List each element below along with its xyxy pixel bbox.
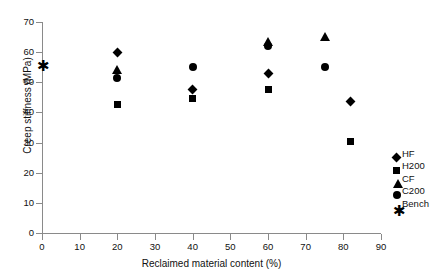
- legend-item-cf[interactable]: CF: [386, 173, 438, 185]
- legend-item-c200[interactable]: C200: [386, 185, 438, 197]
- diamond-marker-icon: [263, 68, 273, 78]
- legend-marker-asterisk: ✱: [386, 198, 400, 210]
- x-tick-label-40: 40: [178, 242, 208, 252]
- legend-marker-square: [386, 160, 400, 172]
- asterisk-marker-icon: ✱: [37, 59, 50, 74]
- x-tick-30: [155, 234, 156, 240]
- triangle-marker-icon: [263, 37, 273, 46]
- x-tick-60: [268, 234, 269, 240]
- x-tick-20: [117, 234, 118, 240]
- circle-marker-icon: [113, 74, 121, 82]
- square-marker-icon: [347, 138, 354, 145]
- chart-screenshot: 010203040506070 0102030405060708090 Cree…: [0, 0, 439, 280]
- chart-legend: HFH200CFC200✱Bench: [386, 148, 438, 210]
- x-tick-90: [381, 234, 382, 240]
- y-tick-label-70: 70: [0, 17, 34, 26]
- square-marker-icon: [265, 86, 272, 93]
- y-axis-title: Creep stiffness (MPa): [22, 31, 33, 181]
- y-tick-70: [36, 22, 42, 23]
- x-tick-label-80: 80: [328, 242, 358, 252]
- x-tick-label-70: 70: [291, 242, 321, 252]
- y-tick-40: [36, 112, 42, 113]
- x-axis-line: [42, 233, 381, 234]
- x-axis-title: Reclaimed material content (%): [42, 258, 381, 269]
- legend-label-text: H200: [402, 160, 425, 172]
- x-tick-70: [306, 234, 307, 240]
- triangle-marker-icon: [320, 32, 330, 41]
- y-tick-label-text: 70: [6, 17, 34, 26]
- x-tick-50: [230, 234, 231, 240]
- y-tick-10: [36, 203, 42, 204]
- diamond-marker-icon: [112, 47, 122, 57]
- x-tick-label-10: 10: [65, 242, 95, 252]
- legend-label-text: C200: [402, 185, 425, 197]
- y-tick-50: [36, 82, 42, 83]
- triangle-marker-icon: [112, 65, 122, 74]
- legend-label-text: Bench: [402, 198, 429, 210]
- x-tick-label-50: 50: [215, 242, 245, 252]
- y-tick-label-10: 10: [0, 198, 34, 207]
- y-tick-30: [36, 143, 42, 144]
- x-tick-label-90: 90: [366, 242, 396, 252]
- x-tick-label-60: 60: [253, 242, 283, 252]
- legend-item-h200[interactable]: H200: [386, 160, 438, 172]
- legend-item-bench[interactable]: ✱Bench: [386, 198, 438, 210]
- y-tick-60: [36, 52, 42, 53]
- y-tick-label-text: 0: [6, 228, 34, 237]
- legend-marker-triangle: [386, 173, 400, 185]
- x-tick-label-20: 20: [102, 242, 132, 252]
- legend-label-text: HF: [402, 148, 415, 160]
- y-tick-label-0: 0: [0, 228, 34, 237]
- diamond-marker-icon: [346, 97, 356, 107]
- x-tick-10: [80, 234, 81, 240]
- square-marker-icon: [114, 101, 121, 108]
- circle-marker-icon: [321, 63, 329, 71]
- legend-marker-circle: [386, 185, 400, 197]
- square-marker-icon: [189, 95, 196, 102]
- legend-marker-diamond: [386, 148, 400, 160]
- y-axis-line: [42, 22, 43, 234]
- x-tick-label-0: 0: [27, 242, 57, 252]
- scatter-plot: 010203040506070 0102030405060708090 Cree…: [0, 0, 439, 280]
- diamond-marker-icon: [188, 85, 198, 95]
- x-tick-80: [343, 234, 344, 240]
- legend-item-hf[interactable]: HF: [386, 148, 438, 160]
- x-tick-label-30: 30: [140, 242, 170, 252]
- x-tick-40: [193, 234, 194, 240]
- x-tick-0: [42, 234, 43, 240]
- y-tick-label-text: 10: [6, 198, 34, 207]
- legend-label-text: CF: [402, 173, 415, 185]
- circle-marker-icon: [264, 42, 272, 50]
- circle-marker-icon: [189, 63, 197, 71]
- y-tick-20: [36, 173, 42, 174]
